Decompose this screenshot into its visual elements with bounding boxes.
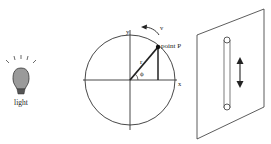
angle-arc — [135, 74, 138, 80]
angle-label: ϕ — [140, 70, 144, 78]
radius-line — [130, 47, 158, 80]
velocity-arrowhead-icon — [141, 25, 147, 30]
velocity-label: v — [160, 24, 164, 31]
screen-panel — [197, 9, 264, 139]
point-p-label: point P — [161, 42, 181, 50]
projection-diagram: light x y ϕ r point P v — [0, 0, 271, 144]
light-bulb-icon — [6, 55, 36, 94]
y-axis-label: y — [126, 28, 130, 35]
x-axis-label: x — [178, 80, 182, 87]
light-label: light — [14, 98, 29, 107]
point-p-marker — [156, 45, 160, 49]
